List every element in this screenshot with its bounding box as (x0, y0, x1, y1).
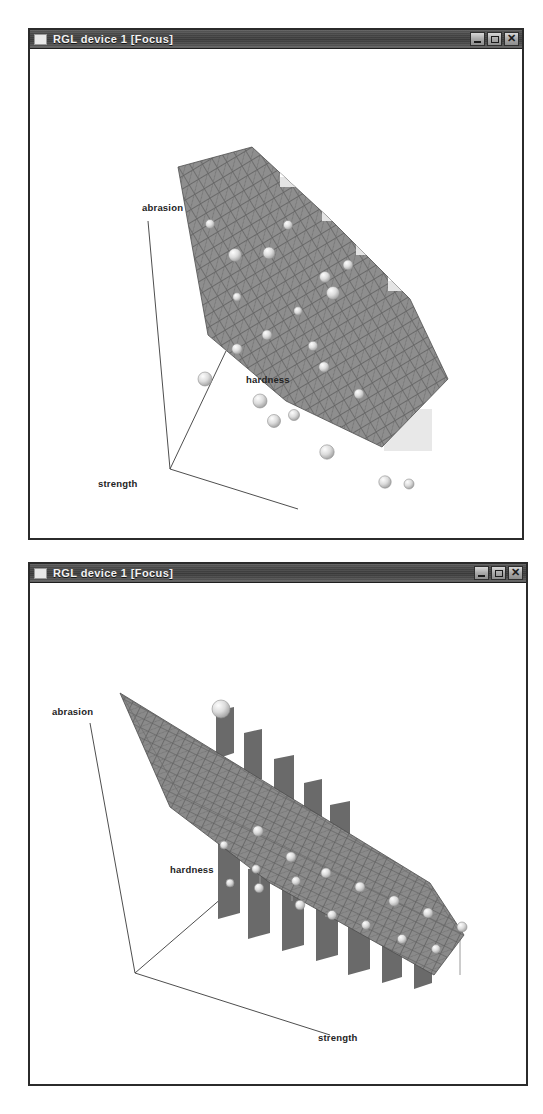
close-icon: ✕ (511, 567, 520, 578)
minimize-icon (474, 41, 481, 43)
maximize-button[interactable] (487, 32, 502, 46)
title-bar[interactable]: RGL device 1 [Focus] ✕ (30, 564, 526, 583)
window-title: RGL device 1 [Focus] (53, 33, 173, 45)
app-icon (34, 568, 47, 579)
plot-1-svg: abrasion hardness strength (30, 49, 522, 538)
window-title: RGL device 1 [Focus] (53, 567, 173, 579)
plot-2-svg: abrasion hardness strength (30, 583, 526, 1084)
axis-label-hardness: hardness (246, 374, 290, 385)
maximize-icon (491, 36, 499, 43)
app-icon (34, 34, 47, 45)
axis-label-abrasion: abrasion (142, 202, 183, 213)
axis-label-strength: strength (98, 478, 138, 489)
minimize-icon (478, 575, 485, 577)
window-controls: ✕ (474, 566, 523, 580)
axis-label-hardness: hardness (170, 864, 214, 875)
minimize-button[interactable] (474, 566, 489, 580)
maximize-icon (495, 570, 503, 577)
close-icon: ✕ (507, 33, 516, 44)
maximize-button[interactable] (491, 566, 506, 580)
rgl-window-1[interactable]: RGL device 1 [Focus] ✕ (28, 28, 524, 540)
close-button[interactable]: ✕ (508, 566, 523, 580)
rgl-canvas-1[interactable]: abrasion hardness strength (30, 49, 522, 538)
axis-label-strength: strength (318, 1032, 358, 1043)
rgl-window-2[interactable]: RGL device 1 [Focus] ✕ (28, 562, 528, 1086)
title-bar[interactable]: RGL device 1 [Focus] ✕ (30, 30, 522, 49)
minimize-button[interactable] (470, 32, 485, 46)
window-controls: ✕ (470, 32, 519, 46)
close-button[interactable]: ✕ (504, 32, 519, 46)
rgl-canvas-2[interactable]: abrasion hardness strength (30, 583, 526, 1084)
axis-label-abrasion: abrasion (52, 706, 93, 717)
regression-surface (178, 139, 450, 447)
